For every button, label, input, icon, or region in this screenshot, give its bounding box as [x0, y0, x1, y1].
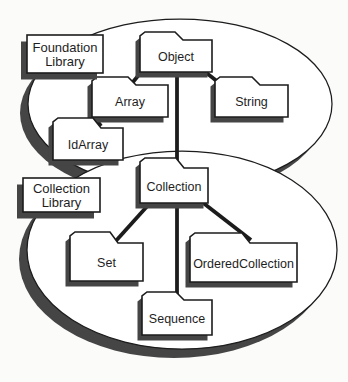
- class-hierarchy-diagram: ObjectArrayStringIdArrayCollectionSetOrd…: [0, 0, 348, 382]
- orderedcollection-folder-label: OrderedCollection: [193, 257, 294, 271]
- object-folder-label: Object: [158, 50, 195, 64]
- class-hierarchy-figure: ObjectArrayStringIdArrayCollectionSetOrd…: [0, 0, 348, 382]
- array-folder-label: Array: [115, 95, 146, 109]
- foundation-library-label-box: FoundationLibrary: [21, 35, 103, 80]
- collection-library-label-line-1: Collection: [33, 181, 90, 196]
- sequence-folder-label: Sequence: [149, 312, 205, 326]
- foundation-library-label-line-1: Foundation: [32, 40, 97, 55]
- set-folder-label: Set: [97, 256, 116, 270]
- foundation-library-label-line-2: Library: [45, 54, 85, 69]
- collection-folder-label: Collection: [147, 180, 202, 194]
- class-node-sequence: Sequence: [138, 292, 213, 341]
- string-folder-label: String: [235, 95, 268, 109]
- collection-library-label-line-2: Library: [42, 195, 82, 210]
- collection-library-label-box: CollectionLibrary: [17, 178, 100, 219]
- idarray-folder-label: IdArray: [68, 138, 109, 152]
